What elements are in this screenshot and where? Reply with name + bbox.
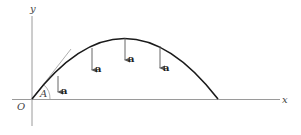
x-axis-label: x — [282, 94, 288, 105]
acceleration-label: a — [61, 85, 68, 96]
acceleration-vector: a — [125, 38, 135, 64]
acceleration-label: a — [163, 62, 170, 73]
acceleration-label: a — [95, 63, 102, 74]
acceleration-vector: a — [58, 76, 68, 96]
acceleration-label: a — [128, 53, 135, 64]
projectile-diagram: y x O A a a a a — [0, 0, 301, 135]
y-axis-label: y — [29, 3, 36, 14]
origin-label: O — [17, 101, 25, 112]
acceleration-vector: a — [92, 48, 102, 74]
launch-angle-label: A — [39, 88, 47, 99]
